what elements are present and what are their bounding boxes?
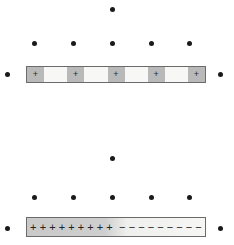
charged-bars-figure: +++++ +++++++++ −−−−−−−−−	[0, 0, 234, 245]
dot-upper-row-2	[71, 41, 76, 46]
dot-left-of-bottom-bar	[5, 226, 10, 231]
bottom-bar-negative-sign: −	[186, 222, 192, 233]
top-bar-positive-cell: +	[148, 67, 165, 82]
dot-upper-row-3	[110, 41, 115, 46]
dot-lower-row-1	[32, 195, 37, 200]
dot-left-of-top-bar	[5, 72, 10, 77]
bottom-bar-positive-sign: +	[59, 222, 65, 233]
top-bar-neutral-cell	[44, 67, 67, 82]
top-bar-positive-cell: +	[108, 67, 125, 82]
bottom-bar-negative-half: −−−−−−−−−	[116, 218, 205, 236]
bottom-bar-positive-sign: +	[40, 222, 46, 233]
dot-lower-row-2	[71, 195, 76, 200]
top-bar-positive-cell: +	[67, 67, 84, 82]
bottom-bar-negative-sign: −	[138, 222, 144, 233]
dot-lower-row-3	[110, 195, 115, 200]
bottom-bar-positive-sign: +	[106, 222, 112, 233]
bottom-bar-negative-sign: −	[119, 222, 125, 233]
bottom-bar-positive-sign: +	[49, 222, 55, 233]
dot-upper-row-4	[149, 41, 154, 46]
bottom-bar-negative-sign: −	[148, 222, 154, 233]
bottom-bar-positive-sign: +	[87, 222, 93, 233]
dot-lower-row-5	[187, 195, 192, 200]
bottom-bar-positive-sign: +	[30, 222, 36, 233]
top-bar-positive-cell: +	[188, 67, 205, 82]
dot-right-of-bottom-bar	[218, 226, 223, 231]
bottom-polarized-bar: +++++++++ −−−−−−−−−	[26, 217, 206, 237]
top-bar-neutral-cell	[125, 67, 148, 82]
dot-right-of-top-bar	[218, 72, 223, 77]
bottom-bar-negative-sign: −	[157, 222, 163, 233]
dot-upper-row-5	[187, 41, 192, 46]
top-bar-neutral-cell	[165, 67, 188, 82]
bottom-bar-negative-sign: −	[129, 222, 135, 233]
dot-middle-center	[110, 156, 115, 161]
bottom-bar-positive-sign: +	[97, 222, 103, 233]
bottom-bar-negative-sign: −	[195, 222, 201, 233]
bottom-bar-positive-sign: +	[68, 222, 74, 233]
bottom-bar-positive-half: +++++++++	[27, 218, 116, 236]
dot-top-center	[110, 7, 115, 12]
bottom-bar-negative-sign: −	[167, 222, 173, 233]
top-bar-positive-cell: +	[27, 67, 44, 82]
bottom-bar-negative-sign: −	[176, 222, 182, 233]
dot-lower-row-4	[149, 195, 154, 200]
top-bar-neutral-cell	[84, 67, 107, 82]
bottom-bar-positive-sign: +	[78, 222, 84, 233]
dot-upper-row-1	[32, 41, 37, 46]
top-charged-bar: +++++	[26, 66, 206, 83]
